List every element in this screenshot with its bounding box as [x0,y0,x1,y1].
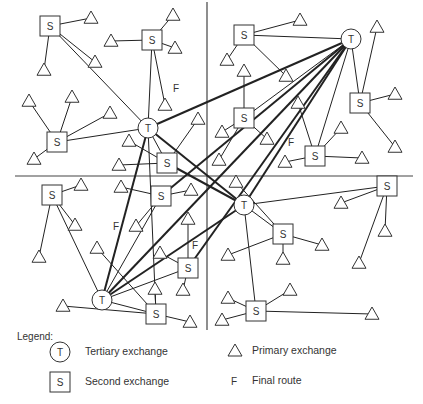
primary-exchange-triangle [65,90,79,102]
primary-exchange-triangle [84,11,98,23]
primary-exchange-triangle [276,252,290,264]
primary-link-line [359,186,387,263]
primary-exchange-triangle [88,55,102,67]
primary-exchange-triangle [74,178,88,190]
primary-exchange-triangle [112,158,126,170]
svg-text:S: S [241,113,248,124]
primary-exchange-triangle [215,125,229,137]
second-exchange-node: S [157,153,177,173]
primary-exchange-triangle [388,140,402,152]
primary-exchange-triangle [291,96,305,108]
trunk-line [148,40,152,128]
primary-exchange-triangle [22,94,36,106]
primary-exchange-triangle [37,63,51,75]
primary-exchange-triangle [334,121,348,133]
second-exchange-node: S [178,258,198,278]
primary-link-line [256,311,372,314]
primary-exchange-triangle [283,283,297,295]
primary-exchange-triangle [334,196,348,208]
trunk-line [244,35,351,39]
final-route-label: F [173,83,179,94]
primary-exchange-triangle [229,175,243,187]
legend-final-route-icon: F [231,376,237,387]
primary-exchange-triangle [166,8,180,20]
svg-text:S: S [357,98,364,109]
final-route-label: F [288,137,294,148]
legend-label-tertiary: Tertiary exchange [85,345,168,357]
primary-exchange-triangle [388,87,402,99]
svg-text:S: S [164,158,171,169]
second-exchange-node: S [273,224,293,244]
primary-exchange-triangle [68,218,82,230]
final-route-label: F [113,221,119,232]
primary-exchange-triangle [237,64,251,76]
primary-exchange-triangle [90,241,104,253]
tertiary-exchange-node: T [234,195,254,215]
second-exchange-node: S [40,16,60,36]
primary-exchange-triangle [365,307,379,319]
primary-link-line [360,27,377,103]
second-exchange-node: S [47,132,67,152]
legend-second-icon: S [50,372,70,392]
primary-exchange-triangle [370,20,384,32]
primary-exchange-triangle [148,282,162,294]
svg-text:S: S [47,21,54,32]
second-exchange-node: S [234,25,254,45]
svg-text:T: T [145,123,151,134]
svg-text:S: S [241,30,248,41]
svg-text:S: S [158,191,165,202]
svg-text:T: T [348,34,354,45]
primary-exchange-triangle [355,151,369,163]
tertiary-exchange-node: T [341,29,361,49]
legend-primary-icon [228,344,242,356]
final-route-line [102,39,351,300]
legend-label-final-route: Final route [252,374,302,386]
svg-text:T: T [99,295,105,306]
primary-exchange-triangle [293,13,307,25]
second-exchange-node: S [151,186,171,206]
svg-text:S: S [149,35,156,46]
primary-exchange-triangle [103,106,117,118]
primary-exchange-triangle [212,153,226,165]
tertiary-exchange-node: T [92,290,112,310]
legend-label-second: Second exchange [85,375,169,387]
trunk-line [244,186,387,205]
svg-text:T: T [241,200,247,211]
svg-text:S: S [153,309,160,320]
second-exchange-node: S [305,146,325,166]
svg-text:S: S [185,263,192,274]
legend-title: Legend: [17,331,53,342]
svg-text:S: S [253,306,260,317]
legend-label-primary: Primary exchange [252,344,337,356]
primary-exchange-triangle [168,41,182,53]
second-exchange-node: S [350,93,370,113]
legend-tertiary-icon: T [50,342,70,362]
connection-lines [50,26,387,314]
svg-text:T: T [57,347,63,358]
primary-exchange-triangle [158,98,172,110]
second-exchange-node: S [42,185,62,205]
primary-exchange-triangle [176,283,190,295]
svg-text:F: F [231,376,237,387]
final-route-label: F [192,240,198,251]
primary-exchange-triangle [32,250,46,262]
primary-exchange-triangle [260,132,274,144]
primary-exchange-triangle [153,246,167,258]
svg-text:S: S [384,181,391,192]
final-route-line [244,39,351,205]
primary-exchange-triangle [122,134,136,146]
tertiary-exchange-node: T [138,118,158,138]
svg-text:S: S [312,151,319,162]
trunk-line [244,205,256,311]
primary-exchange-triangle [352,256,366,268]
second-exchange-node: S [142,30,162,50]
trunk-line [102,268,188,300]
primary-exchange-triangle [27,152,41,164]
primary-exchange-triangle [104,34,118,46]
second-exchange-node: S [246,301,266,321]
second-exchange-node: S [146,304,166,324]
svg-text:S: S [54,137,61,148]
primary-exchange-triangle [56,299,70,311]
primary-exchange-triangle [191,112,205,124]
telephone-network-hierarchy-diagram: TTTTSSSSSSSSSSSSSSS FFFF T S F [0,0,423,404]
